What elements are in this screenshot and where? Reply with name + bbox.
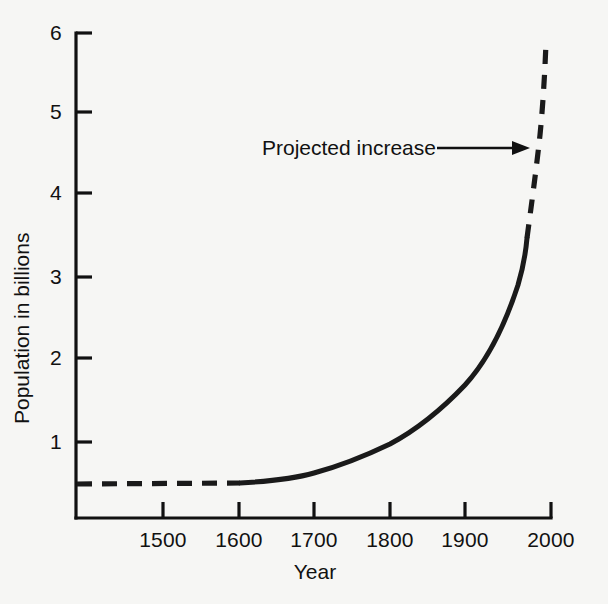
series-observed-solid — [240, 238, 527, 483]
x-tick-label-1900: 1900 — [441, 528, 489, 552]
y-axis-title: Population in billions — [10, 233, 34, 424]
series-historical-dashed — [77, 483, 240, 484]
projection-arrow-icon — [437, 141, 530, 155]
y-tick-label-3: 3 — [40, 265, 62, 289]
y-tick-label-2: 2 — [40, 346, 62, 370]
y-axis-ticks — [76, 33, 92, 442]
x-tick-label-1700: 1700 — [290, 528, 338, 552]
y-tick-label-5: 5 — [40, 100, 62, 124]
x-tick-label-1500: 1500 — [139, 528, 187, 552]
x-tick-label-1600: 1600 — [215, 528, 263, 552]
x-tick-label-2000: 2000 — [527, 528, 575, 552]
series-projected-dashed — [527, 42, 546, 238]
chart-plot-area — [0, 0, 608, 604]
y-tick-label-6: 6 — [40, 21, 62, 45]
x-tick-label-1800: 1800 — [366, 528, 414, 552]
y-tick-label-4: 4 — [40, 181, 62, 205]
y-tick-label-1: 1 — [40, 430, 62, 454]
projected-increase-annotation: Projected increase — [262, 136, 436, 160]
x-axis-ticks — [163, 502, 551, 518]
population-growth-chart: 6 5 4 3 2 1 1500 1600 1700 1800 1900 200… — [0, 0, 608, 604]
x-axis-title: Year — [294, 560, 336, 584]
